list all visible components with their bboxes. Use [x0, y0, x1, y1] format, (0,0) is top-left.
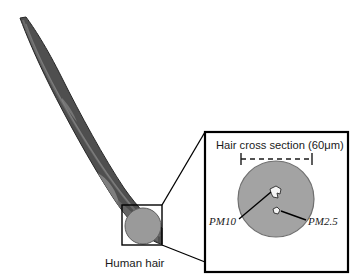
pm10-label: PM10	[209, 216, 236, 227]
hair-pm-figure: Human hair Hair cross section (60μm) PM1…	[0, 0, 354, 278]
cross-section-disc	[238, 161, 314, 237]
hair-end-circle	[125, 208, 161, 244]
pm25-label: PM2.5	[308, 216, 338, 227]
connector-line-top	[162, 132, 205, 205]
inset-panel-title: Hair cross section (60μm)	[216, 140, 344, 151]
human-hair-label: Human hair	[105, 258, 164, 270]
connector-line-bottom	[162, 245, 205, 262]
hair-end-cross-section	[125, 208, 161, 244]
inset-panel	[205, 132, 348, 272]
